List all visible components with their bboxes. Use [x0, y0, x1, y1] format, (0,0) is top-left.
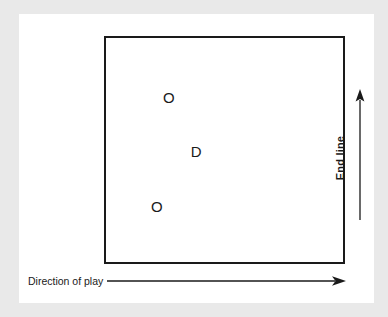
marker-offensive-top: O — [163, 90, 175, 105]
marker-offensive-bottom: O — [151, 199, 163, 214]
direction-of-play-arrow-icon — [107, 275, 347, 287]
playing-area-rectangle: O D O — [104, 36, 345, 264]
figure-root: O D O End line Direction of play — [0, 0, 388, 317]
direction-of-play-annotation: Direction of play — [28, 272, 347, 290]
marker-defensive: D — [191, 144, 202, 159]
end-line-arrow-icon — [354, 88, 366, 224]
direction-of-play-label: Direction of play — [28, 272, 103, 290]
end-line-annotation: End line — [332, 88, 380, 228]
end-line-label: End line — [332, 88, 348, 228]
figure-paper: O D O End line Direction of play — [19, 14, 374, 303]
